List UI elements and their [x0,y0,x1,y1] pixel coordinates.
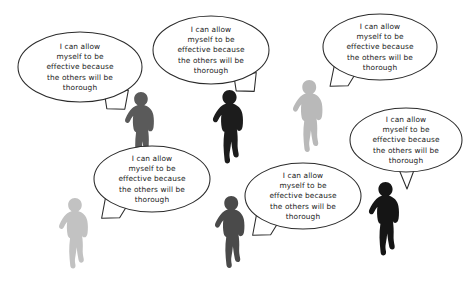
scene-canvas [0,0,474,287]
bubble-outline [245,163,361,229]
bubble-outline [153,16,269,84]
bubble-outline [94,146,210,212]
bubble-outline [350,108,462,172]
bubble-outline [18,32,142,102]
bubble-outline [323,14,437,80]
speech-bubble-scene: I can allow myself to be effective becau… [0,0,474,287]
